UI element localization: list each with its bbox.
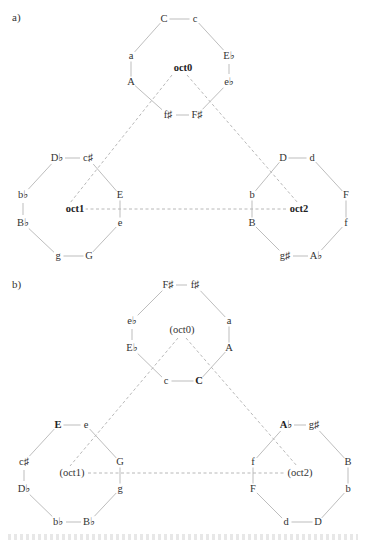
pitch-node: A♭: [310, 250, 323, 262]
pitch-node: A: [127, 76, 135, 88]
octagon-edge-b-oct0-1: [200, 291, 225, 317]
octagon-edge-b-oct0-5: [138, 354, 162, 378]
pitch-node: B♭: [83, 516, 95, 528]
pitch-node: F♯: [162, 279, 173, 291]
octagon-edge-b-oct1-1: [90, 429, 117, 458]
pitch-node: b: [249, 189, 254, 201]
pitch-node: c♯: [19, 456, 29, 468]
pitch-node: A: [225, 342, 233, 354]
dashed-link-a-1: [187, 75, 298, 203]
pitch-node: e: [84, 419, 89, 431]
octagon-edge-a-oct1-7: [28, 164, 51, 189]
octagon-edge-b-oct2-5: [257, 493, 282, 518]
pitch-node: g♯: [280, 250, 291, 262]
panel-label-a: a): [12, 11, 21, 23]
pitch-node: f: [344, 217, 348, 229]
pitch-node: G: [85, 250, 93, 262]
octagon-edge-a-oct1-5: [29, 228, 54, 252]
octagon-edge-a-oct2-5: [256, 227, 279, 250]
pitch-node: e: [118, 217, 123, 229]
pitch-node: F: [250, 483, 256, 495]
octagon-edge-a-oct1-1: [93, 164, 116, 191]
pitch-node: d: [283, 516, 288, 528]
dashed-link-b-1: [186, 338, 297, 466]
pitch-node: B: [344, 456, 351, 468]
pitch-node: G: [116, 456, 124, 468]
pitch-node: F♯: [191, 109, 202, 121]
dashed-link-a-0: [70, 75, 172, 203]
octagon-edge-b-oct0-7: [138, 291, 163, 316]
octagon-edge-a-oct2-3: [321, 227, 342, 250]
pitch-node: E♭: [223, 50, 234, 62]
octagon-center-label-oct2: oct2: [289, 203, 310, 215]
octagon-center-label-oct0: oct0: [173, 62, 194, 74]
pitch-node: E: [54, 419, 61, 431]
pitch-node: C: [195, 375, 203, 387]
truncated-caption: [8, 534, 358, 540]
pitch-node: f♯: [164, 109, 173, 121]
octagon-center-label-oct1: (oct1): [58, 467, 85, 479]
pitch-node: g: [117, 483, 122, 495]
octagon-center-label-oct1: oct1: [65, 203, 86, 215]
octagon-edge-b-oct2-3: [322, 493, 345, 518]
pitch-node: b: [345, 483, 350, 495]
diagram-canvas: a)CcE♭e♭F♯f♯Aaoct0D♭c♯EeGgB♭b♭oct1DdFfA♭…: [0, 0, 366, 540]
pitch-node: c♯: [83, 152, 93, 164]
pitch-node: a: [129, 50, 134, 62]
pitch-node: d: [309, 152, 314, 164]
pitch-node: B: [248, 217, 255, 229]
octagon-edge-b-oct1-3: [94, 493, 116, 516]
pitch-node: F: [343, 189, 349, 201]
pitch-node: f♯: [191, 279, 200, 291]
panel-label-b: b): [12, 278, 21, 290]
pitch-node: c: [193, 13, 198, 25]
pitch-node: A♭: [280, 419, 293, 431]
octagon-edge-a-oct0-7: [135, 23, 161, 52]
octagon-edge-a-oct0-3: [203, 88, 224, 110]
pitch-node: C: [160, 13, 167, 25]
octagon-edge-a-oct2-1: [316, 162, 343, 191]
octagon-edge-b-oct2-1: [319, 431, 344, 458]
octagon-edge-b-oct1-5: [30, 495, 53, 517]
pitch-node: b♭: [53, 516, 63, 528]
pitch-node: b♭: [18, 189, 28, 201]
octagon-edge-b-oct2-7: [257, 431, 281, 458]
pitch-node: D♭: [18, 483, 31, 495]
dashed-link-b-0: [70, 338, 178, 466]
octagon-edge-a-oct0-5: [135, 86, 162, 110]
pitch-node: B♭: [17, 217, 29, 229]
octagon-center-label-oct2: (oct2): [286, 467, 313, 479]
pitch-node: D♭: [51, 152, 64, 164]
octagon-edge-b-oct0-3: [203, 352, 226, 377]
pitch-node: g: [55, 250, 60, 262]
pitch-node: a: [227, 315, 232, 327]
pitch-node: D: [314, 516, 322, 528]
octagon-edge-a-oct0-1: [199, 23, 224, 50]
octagon-edge-a-oct2-7: [256, 162, 280, 191]
octagon-edge-b-oct1-7: [29, 429, 54, 456]
pitch-node: D: [279, 152, 287, 164]
pitch-node: e♭: [127, 315, 137, 327]
octagon-graph-edges: [0, 0, 366, 540]
pitch-node: E♭: [126, 342, 137, 354]
pitch-node: e♭: [224, 76, 234, 88]
pitch-node: f: [251, 456, 255, 468]
octagon-edge-a-oct1-3: [93, 227, 116, 252]
pitch-node: c: [164, 375, 169, 387]
pitch-node: E: [117, 189, 123, 201]
pitch-node: g♯: [309, 419, 320, 431]
octagon-center-label-oct0: (oct0): [168, 324, 195, 336]
